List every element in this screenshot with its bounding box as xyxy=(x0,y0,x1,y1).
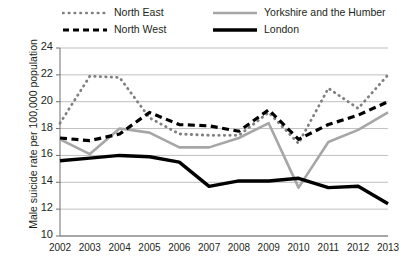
y-axis-tick: 12 xyxy=(29,201,53,213)
y-axis-tick: 18 xyxy=(29,121,53,133)
series-line xyxy=(60,75,388,143)
x-axis-tick: 2013 xyxy=(371,242,404,253)
y-axis-tick: 24 xyxy=(29,40,53,52)
y-axis-tick: 22 xyxy=(29,67,53,79)
series-line xyxy=(60,112,388,187)
y-axis-tick: 20 xyxy=(29,94,53,106)
y-axis-tick: 16 xyxy=(29,147,53,159)
y-axis-tick: 10 xyxy=(29,228,53,240)
y-axis-tick: 14 xyxy=(29,174,53,186)
series-line xyxy=(60,155,388,203)
